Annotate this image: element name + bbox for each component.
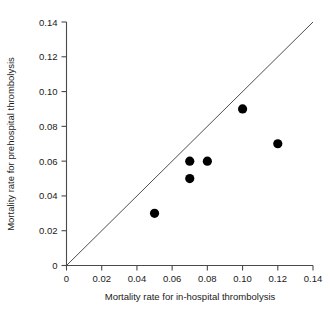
x-tick-label: 0 — [64, 273, 69, 284]
data-point — [150, 209, 159, 218]
x-tick-marks — [67, 266, 314, 271]
y-tick-label: 0.12 — [39, 51, 58, 62]
x-tick-label: 0.06 — [163, 273, 182, 284]
x-tick-label: 0.14 — [304, 273, 323, 284]
x-tick-label: 0.08 — [198, 273, 217, 284]
x-tick-label: 0.10 — [233, 273, 252, 284]
y-tick-marks — [62, 22, 67, 266]
y-tick-label: 0.08 — [39, 121, 58, 132]
data-points-group — [150, 104, 282, 218]
y-axis-title: Mortality rate for prehospital thromboly… — [5, 57, 16, 231]
data-point — [203, 157, 212, 166]
x-tick-label: 0.02 — [92, 273, 111, 284]
data-point — [185, 174, 194, 183]
y-tick-label: 0.02 — [39, 225, 58, 236]
scatter-plot-figure: 00.020.040.060.080.100.120.14 00.020.040… — [0, 0, 333, 313]
y-tick-label: 0 — [52, 260, 57, 271]
x-tick-labels: 00.020.040.060.080.100.120.14 — [64, 273, 322, 284]
plot-canvas: 00.020.040.060.080.100.120.14 00.020.040… — [0, 0, 333, 313]
data-point — [273, 139, 282, 148]
data-point — [238, 104, 247, 113]
x-tick-label: 0.04 — [128, 273, 147, 284]
y-tick-label: 0.10 — [39, 86, 58, 97]
x-tick-label: 0.12 — [269, 273, 288, 284]
y-tick-label: 0.14 — [39, 17, 58, 28]
data-point — [185, 157, 194, 166]
y-tick-label: 0.04 — [39, 190, 58, 201]
y-tick-label: 0.06 — [39, 156, 58, 167]
x-axis-title: Mortality rate for in-hospital thromboly… — [105, 291, 276, 302]
y-tick-labels: 00.020.040.060.080.100.120.14 — [39, 17, 58, 272]
